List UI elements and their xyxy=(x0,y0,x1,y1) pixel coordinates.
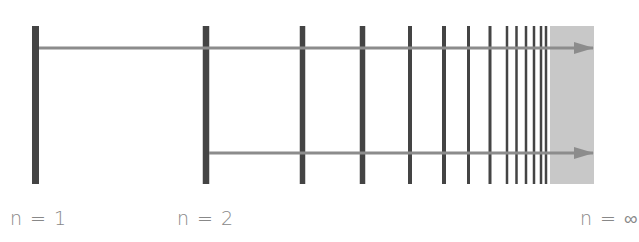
energy-level-bar xyxy=(540,26,543,184)
energy-level-bar xyxy=(442,26,446,184)
energy-level-bar xyxy=(360,26,366,184)
label-n-2: n = 2 xyxy=(177,207,234,229)
energy-level-bar xyxy=(545,26,548,184)
energy-level-bar xyxy=(408,26,412,184)
label-n-infinity: n = ∞ xyxy=(580,207,639,230)
continuum-region xyxy=(550,26,594,184)
continuum-shade xyxy=(550,26,594,184)
energy-levels xyxy=(32,26,547,184)
energy-level-bar xyxy=(489,26,492,184)
energy-level-bar xyxy=(32,26,39,184)
energy-level-bar xyxy=(506,26,509,184)
energy-level-bar xyxy=(525,26,528,184)
energy-level-bar xyxy=(515,26,518,184)
energy-level-bar xyxy=(467,26,470,184)
energy-level-bar xyxy=(203,26,210,184)
label-n-1: n = 1 xyxy=(10,207,67,229)
energy-level-bar xyxy=(533,26,536,184)
transition-arrows xyxy=(39,48,593,153)
energy-level-bar xyxy=(300,26,306,184)
